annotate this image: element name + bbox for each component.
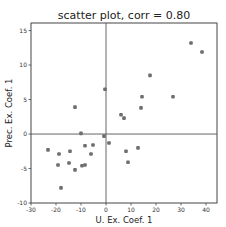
- data-point: [67, 161, 71, 165]
- data-point: [59, 186, 63, 190]
- y-tick-label: -5: [21, 165, 27, 172]
- data-point: [107, 141, 111, 145]
- plot-area: -30-20-10010203040-10-5051015: [17, 23, 217, 213]
- data-point: [136, 146, 140, 150]
- data-point: [46, 148, 50, 152]
- data-point: [119, 113, 123, 117]
- data-point: [103, 87, 107, 91]
- data-point: [102, 134, 106, 138]
- x-tick-label: 30: [177, 206, 185, 213]
- y-tick-label: 5: [23, 96, 27, 103]
- data-point: [73, 105, 77, 109]
- data-point: [140, 95, 144, 99]
- x-tick-label: 10: [127, 206, 135, 213]
- data-point: [139, 106, 143, 110]
- scatter-chart: scatter plot, corr = 0.80 -30-20-1001020…: [0, 0, 226, 227]
- x-tick-label: 40: [202, 206, 210, 213]
- data-point: [83, 144, 87, 148]
- y-axis-label: Prec. Ex. Coef. 1: [4, 79, 14, 148]
- data-point: [68, 149, 72, 153]
- data-point: [148, 74, 152, 78]
- data-point: [89, 152, 93, 156]
- data-point: [79, 132, 83, 136]
- y-tick-label: 0: [23, 130, 27, 137]
- data-point: [73, 168, 77, 172]
- x-tick-label: -10: [76, 206, 86, 213]
- data-point: [126, 161, 130, 165]
- data-point: [122, 116, 126, 120]
- x-tick-label: 20: [152, 206, 160, 213]
- plot-frame: [31, 23, 217, 203]
- y-tick-label: -10: [17, 199, 27, 206]
- data-point: [83, 163, 87, 167]
- data-point: [56, 163, 60, 167]
- data-point: [124, 149, 128, 153]
- data-point: [57, 152, 61, 156]
- x-axis-label: U. Ex. Coef. 1: [96, 215, 153, 225]
- y-tick-label: 15: [19, 27, 27, 34]
- chart-title: scatter plot, corr = 0.80: [58, 9, 190, 22]
- x-tick-label: -20: [51, 206, 61, 213]
- data-point: [189, 41, 193, 45]
- x-tick-label: 0: [104, 206, 108, 213]
- data-point: [171, 95, 175, 99]
- data-point: [200, 50, 204, 54]
- y-tick-label: 10: [19, 61, 27, 68]
- x-tick-label: -30: [26, 206, 36, 213]
- data-point: [91, 143, 95, 147]
